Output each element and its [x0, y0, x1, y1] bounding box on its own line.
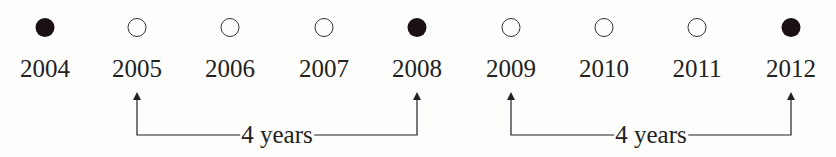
arrow-up-icon [413, 92, 421, 100]
arrow-up-icon [133, 92, 141, 100]
span-label: 4 years [614, 121, 688, 149]
span-label: 4 years [240, 121, 314, 149]
arrow-up-icon [787, 92, 795, 100]
arrow-up-icon [507, 92, 515, 100]
span-arrows [0, 0, 836, 157]
